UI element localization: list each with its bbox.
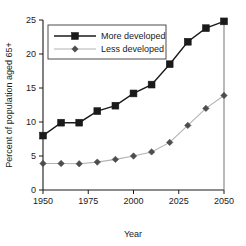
y-tick-label: 15 <box>26 83 36 93</box>
data-point-diamond <box>94 159 100 165</box>
x-tick-label: 2000 <box>123 196 143 206</box>
y-tick-label: 0 <box>31 185 36 195</box>
y-tick-label: 25 <box>26 15 36 25</box>
x-axis-ticks: 19501975200020252050 <box>33 190 234 206</box>
data-point-diamond <box>130 153 136 159</box>
data-point-diamond <box>148 149 154 155</box>
series-less-developed <box>40 92 227 167</box>
data-point-diamond <box>40 160 46 166</box>
legend-label: Less developed <box>101 44 164 54</box>
y-tick-label: 5 <box>31 151 36 161</box>
x-axis-title: Year <box>124 229 142 239</box>
data-point-square <box>184 38 191 45</box>
chart-legend: More developedLess developed <box>48 25 166 59</box>
data-point-square <box>221 18 228 25</box>
data-point-square <box>72 33 79 40</box>
x-tick-label: 2025 <box>169 196 189 206</box>
y-tick-label: 20 <box>26 49 36 59</box>
data-point-square <box>76 119 83 126</box>
data-point-diamond <box>76 161 82 167</box>
y-tick-label: 10 <box>26 117 36 127</box>
x-tick-label: 2050 <box>214 196 234 206</box>
y-axis-title: Percent of population aged 65+ <box>4 42 14 167</box>
x-tick-label: 1975 <box>78 196 98 206</box>
data-point-square <box>203 25 210 32</box>
x-tick-label: 1950 <box>33 196 53 206</box>
data-point-diamond <box>58 160 64 166</box>
data-point-square <box>112 102 119 109</box>
data-point-square <box>130 90 137 97</box>
data-point-square <box>148 81 155 88</box>
data-point-square <box>58 119 65 126</box>
legend-label: More developed <box>101 31 166 41</box>
chart-container: 0510152025 19501975200020252050 Year Per… <box>0 0 246 246</box>
line-chart: 0510152025 19501975200020252050 Year Per… <box>0 0 246 246</box>
data-point-square <box>40 132 47 139</box>
data-point-diamond <box>112 156 118 162</box>
data-point-square <box>166 61 173 68</box>
y-axis-ticks: 0510152025 <box>26 15 43 195</box>
data-point-square <box>94 108 101 115</box>
